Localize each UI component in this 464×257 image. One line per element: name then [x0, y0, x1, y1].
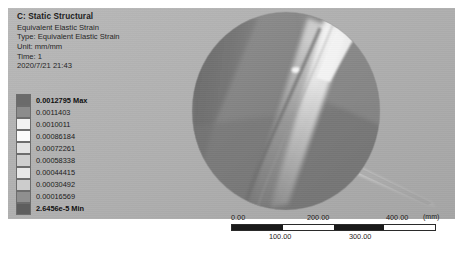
annotation-result-name: Equivalent Elastic Strain: [17, 23, 120, 33]
legend-row[interactable]: 0.0010011: [16, 118, 87, 130]
ruler-unit-label: (mm): [423, 213, 439, 220]
legend-row[interactable]: 2.6456e-5 Min: [16, 203, 87, 215]
legend-swatch: [16, 167, 31, 179]
ruler-bar: [231, 224, 436, 231]
legend-row[interactable]: 0.00044415: [16, 167, 87, 179]
ruler-tick-400: 400.00: [386, 213, 408, 222]
legend-label: 0.00016569: [36, 192, 75, 201]
legend-swatch: [16, 179, 31, 191]
legend-row[interactable]: 0.00058338: [16, 154, 87, 166]
legend-label: 0.00086184: [36, 132, 75, 141]
legend-row[interactable]: 0.00030492: [16, 179, 87, 191]
legend-label: 0.00072261: [36, 144, 75, 153]
annotation-unit: Unit: mm/mm: [17, 42, 120, 52]
annotation-timestamp: 2020/7/21 21:43: [17, 61, 120, 71]
legend-swatch: [16, 130, 31, 142]
legend-label: 0.0012795 Max: [36, 96, 87, 105]
result-viewport[interactable]: C: Static Structural Equivalent Elastic …: [8, 8, 455, 219]
ruler-tick-0: 0.00: [231, 213, 245, 222]
ruler-segment: [283, 225, 334, 230]
ruler-tick-300: 300.00: [349, 232, 371, 241]
legend-label: 2.6456e-5 Min: [36, 204, 84, 213]
annotation-title: C: Static Structural: [17, 12, 120, 23]
legend-swatch: [16, 142, 31, 154]
legend-label: 0.00044415: [36, 168, 75, 177]
ruler-segment: [334, 225, 385, 230]
scale-ruler: 0.00 200.00 400.00 (mm) 100.00 300.00: [231, 213, 436, 243]
ruler-minor-tick-labels: 100.00 300.00: [231, 232, 436, 243]
disc-body: [192, 12, 386, 213]
annotation-block: C: Static Structural Equivalent Elastic …: [17, 12, 120, 71]
legend-row[interactable]: 0.0012795 Max: [16, 94, 87, 106]
annotation-time: Time: 1: [17, 52, 120, 62]
legend-swatch: [16, 106, 31, 118]
legend-row[interactable]: 0.00016569: [16, 191, 87, 203]
ruler-tick-200: 200.00: [307, 213, 329, 222]
legend-swatch: [16, 118, 31, 130]
legend-row[interactable]: 0.00072261: [16, 142, 87, 154]
legend-row[interactable]: 0.00086184: [16, 130, 87, 142]
ruler-segment: [232, 225, 283, 230]
legend-label: 0.00030492: [36, 180, 75, 189]
legend-swatch: [16, 191, 31, 203]
legend-swatch: [16, 154, 31, 166]
ruler-segment: [384, 225, 435, 230]
legend-swatch: [16, 203, 31, 215]
legend-label: 0.0010011: [36, 120, 70, 129]
ruler-major-tick-labels: 0.00 200.00 400.00 (mm): [231, 213, 436, 224]
ruler-tick-100: 100.00: [269, 232, 291, 241]
legend-row[interactable]: 0.0011403: [16, 106, 87, 118]
legend-swatch: [16, 94, 31, 106]
result-legend[interactable]: 0.0012795 Max 0.0011403 0.0010011 0.0008…: [16, 94, 87, 215]
legend-label: 0.00058338: [36, 156, 75, 165]
annotation-type: Type: Equivalent Elastic Strain: [17, 32, 120, 42]
legend-label: 0.0011403: [36, 108, 70, 117]
